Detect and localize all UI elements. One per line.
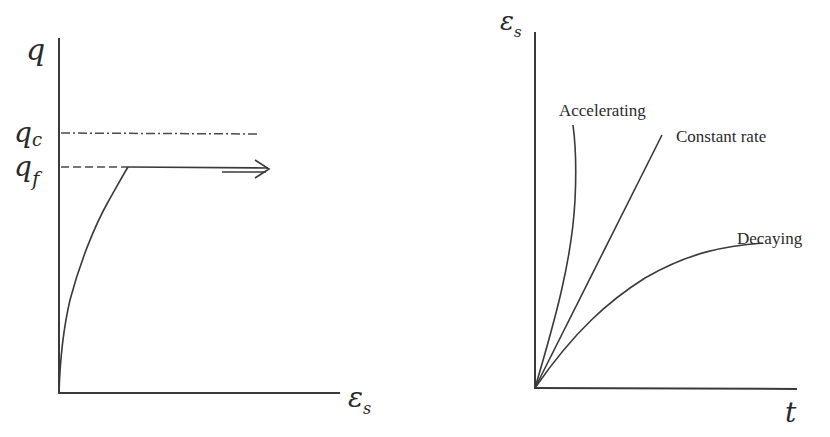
left-y-axis-label: q	[26, 32, 45, 67]
creep-diagram: q qc qf εs εs	[0, 0, 830, 437]
right-y-axis-label: εs	[500, 6, 522, 41]
accelerating-label: Accelerating	[559, 101, 646, 120]
right-panel-strain-time: εs t Accelerating Constant rate Decaying	[500, 6, 803, 429]
decaying-curve	[535, 243, 763, 388]
qf-plateau-line	[128, 167, 268, 168]
left-panel-stress-strain: q qc qf εs	[14, 32, 371, 418]
qc-level-line	[61, 133, 259, 134]
constant-rate-label: Constant rate	[676, 127, 766, 146]
decaying-label: Decaying	[737, 229, 803, 248]
right-x-axis	[534, 388, 797, 389]
stress-strain-curve	[59, 167, 128, 393]
qf-label: qf	[14, 150, 43, 191]
qc-label: qc	[14, 116, 42, 150]
constant-rate-line	[535, 135, 662, 388]
left-x-axis-label: εs	[348, 381, 371, 418]
right-x-axis-label: t	[785, 396, 797, 429]
arrow-right-icon	[222, 160, 269, 178]
